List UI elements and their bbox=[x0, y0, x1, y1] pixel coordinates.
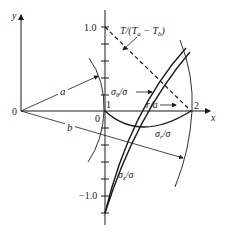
r-axis-end-label: 2 bbox=[194, 100, 199, 111]
temperature-label: T/(Ta − Tb) bbox=[120, 25, 166, 38]
radius-b-label: b bbox=[67, 121, 73, 133]
thermal-stress-figure: x y 0 a b 1.0 −1.0 0 1 2 r/a T/(Ta − bbox=[0, 0, 227, 235]
sigma-z-label: σz/σ bbox=[118, 169, 134, 182]
outer-radius-arc bbox=[175, 40, 192, 187]
stress-axis bbox=[101, 10, 109, 225]
temperature-leader bbox=[123, 37, 137, 50]
y-axis-label: y bbox=[11, 10, 17, 21]
x-axis-label: x bbox=[210, 112, 216, 123]
origin-label: 0 bbox=[12, 106, 17, 117]
sigma-z-curve bbox=[105, 52, 190, 213]
r-axis-start-label: 1 bbox=[106, 99, 111, 110]
stress-tick-top-label: 1.0 bbox=[84, 22, 97, 33]
stress-zero-label: 0 bbox=[95, 113, 100, 124]
sigma-theta-label: σθ/σ bbox=[111, 86, 128, 99]
radius-a-label: a bbox=[60, 85, 66, 97]
inner-radius-arc bbox=[88, 58, 104, 162]
stress-tick-bottom-label: −1.0 bbox=[79, 190, 97, 201]
sigma-r-label: σr/σ bbox=[155, 128, 171, 141]
